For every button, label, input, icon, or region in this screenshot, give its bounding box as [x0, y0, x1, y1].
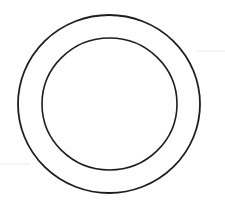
inner-circle	[42, 38, 177, 170]
concentric-circles-figure	[0, 0, 225, 207]
drawing-canvas	[0, 0, 225, 207]
outer-circle	[18, 15, 200, 193]
